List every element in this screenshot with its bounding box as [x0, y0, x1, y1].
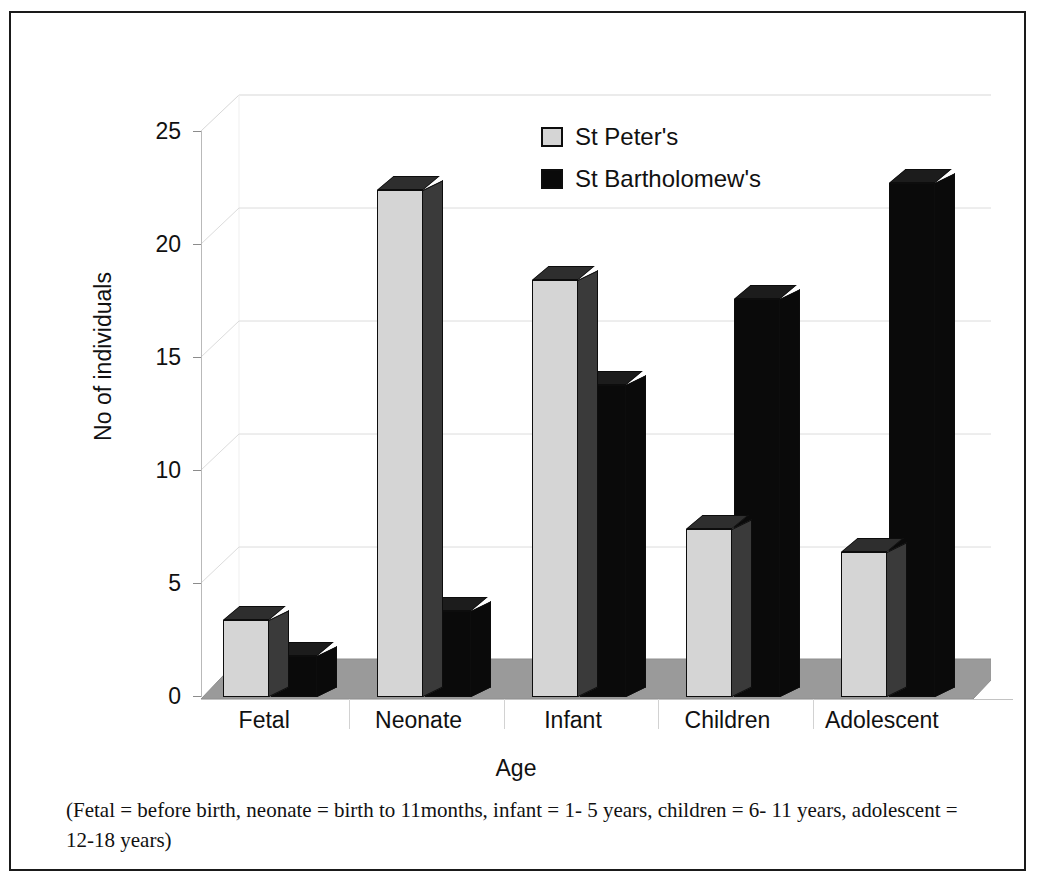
bar-front-face	[223, 620, 269, 697]
bar-side-face	[269, 610, 289, 697]
bar-chart: 25 20 15 10 5 0	[41, 43, 991, 743]
legend-swatch-st-bartholomews	[541, 169, 563, 189]
legend-swatch-st-peters	[541, 127, 563, 147]
scanned-page: 25 20 15 10 5 0	[0, 0, 1040, 882]
legend-label-st-bartholomews: St Bartholomew's	[575, 165, 761, 193]
bar-adolescent-st-peter-s	[841, 552, 887, 697]
bar-front-face	[532, 280, 578, 697]
bar-side-face	[887, 542, 907, 697]
legend-label-st-peters: St Peter's	[575, 123, 678, 151]
x-axis-label-fetal: Fetal	[239, 707, 290, 734]
bar-front-face	[686, 529, 732, 697]
bar-front-face	[377, 190, 423, 697]
figure-border: 25 20 15 10 5 0	[9, 11, 1026, 871]
y-tick-0: 0	[193, 696, 201, 697]
y-tick-label-10: 10	[155, 459, 181, 482]
x-tick	[349, 699, 350, 729]
y-tick-label-0: 0	[168, 685, 181, 708]
x-tick	[658, 699, 659, 729]
bar-side-face	[317, 646, 337, 697]
x-tick	[813, 699, 814, 729]
legend-item-st-peters: St Peter's	[541, 123, 761, 151]
bar-side-face	[423, 180, 443, 697]
bar-children-st-peter-s	[686, 529, 732, 697]
y-tick-25: 25	[193, 131, 201, 132]
figure: 25 20 15 10 5 0	[11, 13, 1024, 869]
y-tick-label-25: 25	[155, 120, 181, 143]
x-axis-title: Age	[41, 755, 991, 782]
bar-neonate-st-peter-s	[377, 190, 423, 697]
bar-infant-st-peter-s	[532, 280, 578, 697]
bar-side-face	[935, 173, 955, 697]
y-tick-label-5: 5	[168, 572, 181, 595]
y-axis-title: No of individuals	[90, 272, 117, 441]
y-tick-label-15: 15	[155, 346, 181, 369]
bar-fetal-st-peter-s	[223, 620, 269, 697]
x-axis-label-infant: Infant	[544, 707, 602, 734]
legend: St Peter's St Bartholomew's	[541, 123, 761, 207]
x-axis-label-neonate: Neonate	[375, 707, 462, 734]
figure-caption: (Fetal = before birth, neonate = birth t…	[66, 795, 966, 855]
y-tick-15: 15	[193, 357, 201, 358]
x-axis-label-children: Children	[685, 707, 771, 734]
x-axis	[201, 699, 1013, 700]
bar-side-face	[578, 271, 598, 697]
x-tick	[504, 699, 505, 729]
y-tick-5: 5	[193, 583, 201, 584]
x-axis-label-adolescent: Adolescent	[825, 707, 939, 734]
bar-side-face	[471, 601, 491, 697]
legend-item-st-bartholomews: St Bartholomew's	[541, 165, 761, 193]
bar-series-container	[201, 131, 973, 697]
bar-side-face	[626, 375, 646, 697]
bar-side-face	[732, 520, 752, 697]
bar-front-face	[841, 552, 887, 697]
y-tick-10: 10	[193, 470, 201, 471]
y-tick-20: 20	[193, 244, 201, 245]
y-tick-label-20: 20	[155, 233, 181, 256]
bar-side-face	[780, 289, 800, 697]
